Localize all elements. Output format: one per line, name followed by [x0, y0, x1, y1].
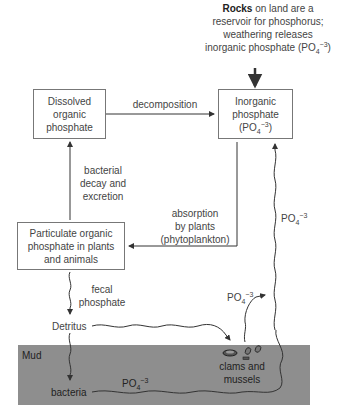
mud-label: Mud: [22, 349, 41, 362]
detritus-label: Detritus: [52, 320, 86, 333]
absorption-label: absorption by plants (phytoplankton): [152, 207, 238, 246]
po4-label-right: PO4−3: [281, 212, 307, 225]
particulate-organic-phosphate-box: Particulate organic phosphate in plants …: [17, 222, 125, 270]
fecal-arrow: [69, 272, 71, 314]
rocks-line4: inorganic phosphate (PO4−3): [195, 41, 341, 54]
inorganic-phosphate-box: Inorganic phosphate (PO4−3): [218, 89, 293, 139]
po4-return-arrow: [274, 144, 276, 330]
dissolved-organic-phosphate-box: Dissolved organic phosphate: [33, 89, 106, 139]
rocks-line3: weathering releases: [195, 28, 341, 41]
mussel-shell-icon: [254, 345, 262, 354]
mussel-shell-icon: [244, 347, 251, 355]
detritus-to-clams-arrow: [92, 324, 230, 340]
rocks-bold: Rocks: [222, 3, 252, 14]
rocks-line2: reservoir for phosphorus;: [195, 15, 341, 28]
rocks-source-caption: Rocks on land are a reservoir for phosph…: [195, 2, 341, 54]
bacteria-label: bacteria: [51, 386, 87, 399]
decomposition-label: decomposition: [120, 98, 210, 111]
bacterial-decay-label: bacterial decay and excretion: [78, 164, 128, 203]
po4-label-clams: PO4−3: [227, 291, 253, 304]
clams-mussels-label: clams and mussels: [212, 360, 272, 386]
po4-label-mud: PO4−3: [122, 377, 148, 390]
clam-shell-inner-icon: [226, 351, 234, 354]
fecal-phosphate-label: fecal phosphate: [76, 283, 128, 309]
rocks-line1: on land are a: [252, 3, 313, 14]
detritus-to-bacteria-arrow: [69, 333, 71, 380]
